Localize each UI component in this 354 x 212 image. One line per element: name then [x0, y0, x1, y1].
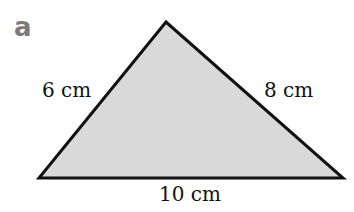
- right-side-label: 8 cm: [264, 78, 313, 102]
- triangle-diagram: [0, 0, 354, 212]
- left-side-label: 6 cm: [42, 78, 91, 102]
- bottom-side-label: 10 cm: [159, 182, 221, 206]
